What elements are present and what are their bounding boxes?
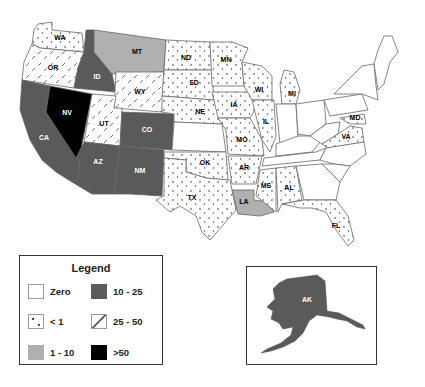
svg-text:ID: ID <box>94 73 101 80</box>
state-CO[interactable]: CO <box>120 112 174 150</box>
legend-item-gt50: >50 <box>91 345 129 360</box>
svg-text:WI: WI <box>255 86 264 93</box>
svg-text:MI: MI <box>288 90 296 97</box>
state-ND[interactable]: ND <box>164 40 212 70</box>
legend: Legend Zero < 1 1 - 10 10 - 25 25 - 50 >… <box>19 255 163 365</box>
svg-text:AZ: AZ <box>93 158 103 165</box>
state-MI[interactable]: MI <box>280 70 300 104</box>
svg-text:WY: WY <box>134 88 146 95</box>
state-FL[interactable]: FL <box>282 200 354 246</box>
state-PA[interactable] <box>324 94 368 116</box>
state-NM[interactable]: NM <box>114 146 164 196</box>
svg-text:NE: NE <box>195 108 205 115</box>
state-MD[interactable]: MD <box>340 114 366 124</box>
svg-text:AL: AL <box>284 184 294 191</box>
svg-text:ND: ND <box>181 54 191 61</box>
state-KS[interactable] <box>172 122 226 152</box>
svg-text:AK: AK <box>302 296 312 303</box>
svg-text:OK: OK <box>200 159 211 166</box>
svg-text:MO: MO <box>236 136 248 143</box>
svg-text:MD: MD <box>350 114 361 121</box>
svg-text:NV: NV <box>62 109 72 116</box>
alaska-inset: AK <box>246 266 377 365</box>
svg-text:UT: UT <box>99 120 109 127</box>
state-WY[interactable]: WY <box>114 72 164 112</box>
svg-text:IA: IA <box>231 101 238 108</box>
swatch-gt50 <box>91 345 107 360</box>
svg-text:LA: LA <box>239 198 248 205</box>
svg-text:NM: NM <box>135 167 146 174</box>
swatch-25-50 <box>91 314 107 329</box>
state-NE-states[interactable] <box>374 36 398 90</box>
legend-item-lt1: < 1 <box>28 314 63 329</box>
svg-text:FL: FL <box>332 222 341 229</box>
swatch-1-10 <box>28 345 44 360</box>
svg-text:VA: VA <box>341 133 350 140</box>
state-SD[interactable]: SD <box>162 70 214 100</box>
state-AK[interactable]: AK <box>247 267 375 363</box>
svg-text:OR: OR <box>48 64 59 71</box>
state-AR[interactable]: AR <box>228 156 262 184</box>
svg-text:CO: CO <box>142 126 153 133</box>
legend-item-10-25: 10 - 25 <box>91 284 143 299</box>
svg-text:IL: IL <box>263 118 270 125</box>
legend-item-1-10: 1 - 10 <box>28 345 74 360</box>
svg-text:TX: TX <box>188 194 197 201</box>
swatch-zero <box>28 284 44 299</box>
svg-text:WA: WA <box>54 34 65 41</box>
svg-text:SD: SD <box>189 79 199 86</box>
swatch-lt1 <box>28 314 44 329</box>
legend-title: Legend <box>20 262 162 274</box>
svg-text:MN: MN <box>221 56 232 63</box>
legend-item-zero: Zero <box>28 284 71 299</box>
legend-item-25-50: 25 - 50 <box>91 314 143 329</box>
svg-text:MT: MT <box>132 48 143 55</box>
swatch-10-25 <box>91 284 107 299</box>
svg-text:MS: MS <box>261 182 272 189</box>
svg-text:CA: CA <box>39 134 49 141</box>
svg-text:AR: AR <box>239 164 249 171</box>
